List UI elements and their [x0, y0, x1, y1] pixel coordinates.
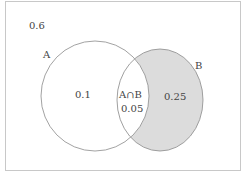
- outside-value: 0.6: [29, 21, 45, 31]
- intersection-label: A∩B: [119, 90, 142, 100]
- set-b-only-value: 0.25: [164, 92, 186, 102]
- set-a-only-value: 0.1: [75, 90, 91, 100]
- set-b-label: B: [195, 61, 202, 71]
- set-a-label: A: [43, 50, 50, 60]
- intersection-value: 0.05: [121, 104, 143, 114]
